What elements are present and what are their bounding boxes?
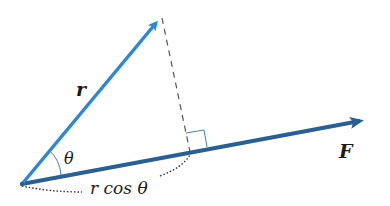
label-F: F	[338, 140, 354, 162]
angle-arc	[49, 150, 61, 175]
diagram-canvas: r θ F r cos θ	[0, 0, 390, 206]
perpendicular-dashed-line	[162, 18, 190, 152]
label-theta: θ	[64, 149, 74, 168]
position-vector-r	[22, 23, 156, 184]
origin-point	[20, 182, 24, 186]
projection-brace-left	[22, 186, 82, 192]
label-r: r	[76, 78, 88, 100]
label-r-cos-theta: r cos θ	[90, 178, 148, 198]
right-angle-marker	[186, 130, 207, 147]
